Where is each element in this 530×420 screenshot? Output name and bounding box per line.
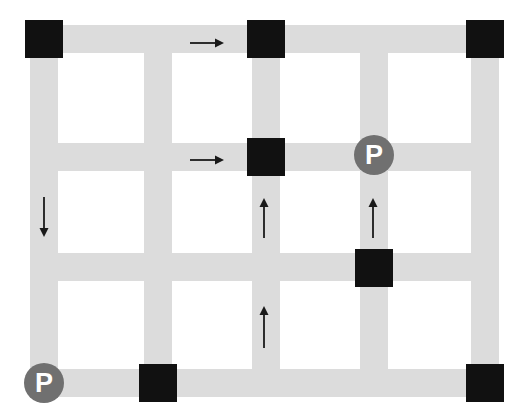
arrow-down-left-glyph xyxy=(36,197,52,237)
blocked-r1c3[interactable] xyxy=(247,20,285,58)
parking-marker-lower-left[interactable]: P xyxy=(24,363,64,403)
arrow-right-middle xyxy=(190,152,224,168)
arrow-right-top-glyph xyxy=(190,35,224,51)
arrow-up-bottom-center xyxy=(256,306,272,348)
blocked-r1c1[interactable] xyxy=(25,20,63,58)
blocked-r4c5[interactable] xyxy=(466,364,504,402)
blocked-r2c3[interactable] xyxy=(247,138,285,176)
arrow-up-center-glyph xyxy=(256,198,272,238)
arrow-up-right-glyph xyxy=(365,198,381,238)
parking-marker-upper-right-label: P xyxy=(365,142,383,169)
arrow-up-right xyxy=(365,198,381,238)
v-col-2 xyxy=(144,25,172,397)
parking-marker-upper-right[interactable]: P xyxy=(354,135,394,175)
blocked-r1c5[interactable] xyxy=(466,20,504,58)
arrow-up-bottom-center-glyph xyxy=(256,306,272,348)
parking-marker-lower-left-label: P xyxy=(35,370,53,397)
blocked-r4c2[interactable] xyxy=(139,364,177,402)
blocked-mid-c4[interactable] xyxy=(355,249,393,287)
v-col-5 xyxy=(471,25,499,397)
arrow-down-left xyxy=(36,197,52,237)
arrow-right-middle-glyph xyxy=(190,152,224,168)
arrow-up-center xyxy=(256,198,272,238)
street-grid-diagram: PP xyxy=(0,0,530,420)
arrow-right-top xyxy=(190,35,224,51)
